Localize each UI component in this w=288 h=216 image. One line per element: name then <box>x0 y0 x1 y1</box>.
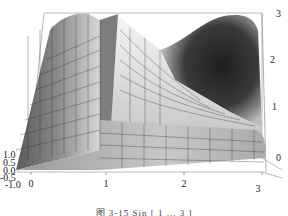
z-tick-1: 1 <box>272 101 277 112</box>
surface-left-sheet <box>16 14 100 170</box>
x-tick-2: 2 <box>182 178 187 189</box>
x-axis <box>31 172 262 175</box>
x-tick-1: 1 <box>104 178 109 189</box>
x-tick-0: 0 <box>29 178 34 189</box>
surface-plot: 0 1 2 3 1.0 0.5 0.0 -0.5 -1.0 3 2 1 0 <box>0 0 288 200</box>
y-tick-neg1: -1.0 <box>5 179 21 190</box>
z-tick-3: 3 <box>276 8 281 19</box>
x-tick-3: 3 <box>256 183 261 194</box>
z-tick-0: 0 <box>276 152 281 163</box>
z-tick-2: 2 <box>270 54 275 65</box>
figure-caption: 图 3-15 Sin [ 1 ... 3 ] <box>0 206 288 216</box>
